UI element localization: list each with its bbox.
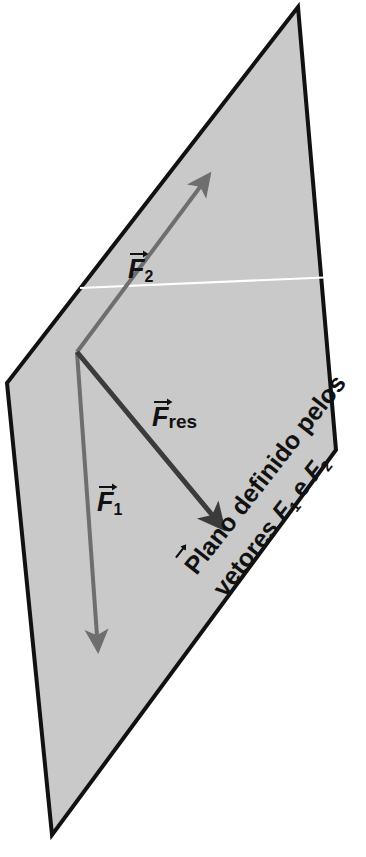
f2-subscript: 2 [145,268,154,285]
label-fres: F res [152,404,197,431]
label-f2: F 2 [128,256,153,285]
f1-symbol: F [97,489,114,516]
fres-subscript: res [169,411,198,432]
diagram-canvas: F 2 F res F 1 Plano definido pelos vetor… [0,0,366,857]
label-f1: F 1 [97,489,122,518]
f2-symbol: F [128,256,145,283]
fres-vector-arrow-icon [153,397,173,406]
f2-vector-arrow-icon [129,249,149,258]
fres-symbol: F [152,404,169,431]
f1-subscript: 1 [114,501,123,518]
f1-vector-arrow-icon [98,482,118,491]
